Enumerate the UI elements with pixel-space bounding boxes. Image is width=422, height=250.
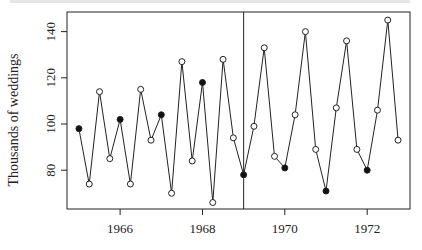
filled-marker [117,116,123,122]
x-axis: 1966196819701972 [107,209,380,236]
open-marker [148,137,154,143]
open-marker [333,105,339,111]
filled-marker [241,172,247,178]
x-tick-label: 1972 [354,221,380,236]
x-tick-label: 1970 [272,221,298,236]
filled-marker [76,126,82,132]
open-marker [272,153,278,159]
data-line [79,20,398,202]
open-marker [107,156,113,162]
open-marker [189,158,195,164]
open-marker [302,29,308,35]
series-polyline [79,20,398,202]
open-marker [251,123,257,129]
open-marker [313,146,319,152]
open-marker [292,112,298,118]
time-series-chart: 1966196819701972 80100120140 Thousands o… [0,0,422,250]
y-tick-label: 100 [43,114,58,134]
open-marker [179,59,185,65]
y-tick-label: 140 [43,22,58,42]
filled-marker [323,188,329,194]
y-tick-label: 80 [43,164,58,177]
open-marker [127,181,133,187]
filled-marker [199,79,205,85]
open-marker [210,200,216,206]
y-axis-label: Thousands of weddings [6,54,21,187]
open-marker [138,86,144,92]
open-marker [374,107,380,113]
open-marker [220,56,226,62]
data-markers [76,17,401,205]
filled-marker [364,167,370,173]
open-marker [169,190,175,196]
plot-frame [67,12,410,209]
open-marker [97,89,103,95]
open-marker [230,135,236,141]
open-marker [86,181,92,187]
open-marker [385,17,391,23]
plot-border [67,12,410,209]
filled-marker [158,112,164,118]
x-tick-label: 1966 [107,221,134,236]
y-tick-label: 120 [43,68,58,88]
filled-marker [282,165,288,171]
y-axis: 80100120140 [43,22,67,177]
open-marker [395,137,401,143]
open-marker [354,146,360,152]
open-marker [344,38,350,44]
open-marker [261,45,267,51]
x-tick-label: 1968 [189,221,215,236]
